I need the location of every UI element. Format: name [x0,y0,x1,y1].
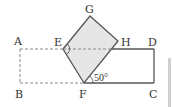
label-a: A [13,35,23,48]
label-g: G [85,3,94,16]
label-e: E [54,36,62,49]
angle-label: 50° [94,72,108,83]
label-h: H [121,36,131,49]
label-b: B [15,88,23,101]
label-d: D [148,36,157,49]
label-c: C [149,88,157,101]
label-f: F [79,88,87,101]
geometry-figure: A B C D E F G H 50° [0,0,173,107]
side-bar [168,58,171,107]
